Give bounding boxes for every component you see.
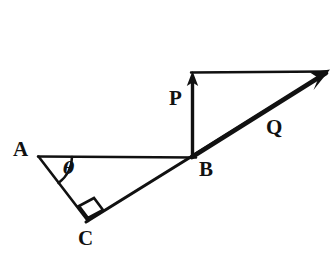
geometry-figure: [0, 0, 334, 262]
label-angle-theta: θ: [63, 160, 74, 177]
label-point-b: B: [199, 159, 213, 180]
segment-ab-baseline: [38, 157, 196, 158]
q-vector-shaft: [192, 73, 326, 157]
segment-top-horizontal: [191, 72, 327, 73]
label-point-a: A: [13, 139, 28, 160]
label-point-c: C: [78, 228, 93, 249]
vector-diagram-canvas: A B C P Q θ: [0, 0, 334, 262]
label-vector-p: P: [169, 88, 182, 109]
label-vector-q: Q: [266, 117, 282, 138]
